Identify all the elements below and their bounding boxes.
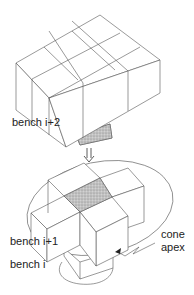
- bench-diagram: bench i+2 bench i+1 bench i: [0, 0, 194, 295]
- label-apex: apex: [161, 241, 185, 253]
- label-bench-i: bench i: [10, 258, 45, 270]
- label-bench-i-plus-1: bench i+1: [10, 235, 58, 247]
- label-bench-i-plus-2: bench i+2: [12, 116, 60, 128]
- down-arrow-icon: [84, 148, 94, 162]
- label-cone: cone: [161, 228, 185, 240]
